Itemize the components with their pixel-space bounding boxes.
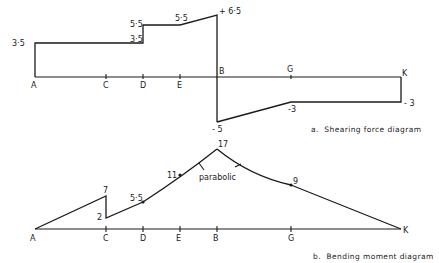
sfd-value-d-high: 5·5 — [130, 20, 143, 29]
parabolic-arrow-left-icon — [199, 163, 204, 170]
bmd-label-a: A — [30, 234, 36, 243]
sfd-value-d-low: 3·5 — [130, 35, 143, 44]
sfd-label-c: C — [103, 81, 109, 90]
sfd-value-b-bottom: - 5 — [212, 125, 223, 134]
sfd-label-k: K — [402, 69, 408, 78]
parabolic-annotation: parabolic — [199, 173, 236, 182]
bending-moment-diagram: parabolic A C D E B G K 7 2 5·5 11 17 9 … — [30, 140, 434, 261]
sfd-label-d: D — [140, 81, 146, 90]
bmd-label-c: C — [103, 234, 109, 243]
sfd-value-a: 3·5 — [12, 39, 25, 48]
bmd-marker-e — [178, 173, 181, 176]
sfd-value-k: - 3 — [404, 99, 415, 108]
sfd-value-b-top: + 6·5 — [219, 7, 241, 16]
bmd-value-c-top: 7 — [103, 186, 108, 195]
sfd-label-g: G — [287, 65, 293, 74]
shear-force-diagram: A C D E B G K 3·5 3·5 5·5 5·5 + 6·5 - 5 … — [12, 7, 421, 134]
bmd-label-e: E — [176, 234, 181, 243]
bmd-label-d: D — [140, 234, 146, 243]
bmd-value-e: 11 — [167, 171, 177, 180]
bmd-value-d: 5·5 — [130, 194, 143, 203]
bmd-caption: b. Bending moment diagram — [313, 252, 434, 261]
sfd-value-e: 5·5 — [175, 14, 188, 23]
bmd-linear-segment — [35, 196, 143, 229]
bmd-label-g: G — [288, 234, 294, 243]
bmd-value-b: 17 — [218, 140, 228, 149]
sfd-value-g: -3 — [288, 105, 296, 114]
bmd-parabolic-right — [217, 149, 401, 229]
bmd-value-g: 9 — [293, 177, 298, 186]
sfd-label-e: E — [177, 81, 182, 90]
beam-diagrams: A C D E B G K 3·5 3·5 5·5 5·5 + 6·5 - 5 … — [0, 0, 439, 263]
bmd-label-b: B — [213, 234, 219, 243]
sfd-negative-outline — [217, 77, 401, 122]
sfd-caption: a. Shearing force diagram — [311, 125, 421, 134]
sfd-label-b: B — [219, 67, 225, 76]
bmd-value-c-bottom: 2 — [97, 213, 102, 222]
sfd-positive-outline — [35, 15, 217, 122]
sfd-label-a: A — [31, 81, 37, 90]
bmd-label-k: K — [403, 226, 409, 235]
